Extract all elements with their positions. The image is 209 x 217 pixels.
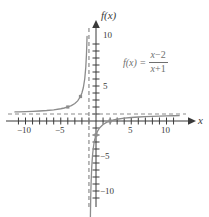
y-tick-label-neg10: −10 [100,187,114,196]
x-axis-arrowhead [188,117,196,125]
y-tick-label-neg5: −5 [100,152,110,161]
x-axis-label: x [198,115,203,126]
x-tick-label-neg5: −5 [55,126,65,135]
equation-fraction: x−2 x+1 [149,50,168,74]
equation-lhs: f(x) [123,57,137,68]
plot-point-marker [94,133,97,136]
x-tick-label-neg10: −10 [17,126,31,135]
denominator-constant: 1 [161,63,166,74]
x-tick-label-5: 5 [128,126,133,135]
curve-left-branch [15,36,87,112]
equation-numerator: x−2 [149,50,168,62]
plot-point-marker [66,105,69,108]
y-tick-label-10: 10 [103,31,112,40]
function-equation: f(x) = x−2 x+1 [123,50,168,74]
plot-point-marker [109,119,112,122]
y-tick-label-5: 5 [103,82,108,91]
y-axis-arrowhead [92,20,100,28]
equation-denominator: x+1 [149,63,168,75]
y-axis-label: f(x) [101,10,116,21]
plot-point-marker [79,95,82,98]
equation-equals-sign: = [139,57,147,68]
function-graph-figure: f(x) x −10 −5 5 10 10 5 −5 −10 f(x) = x−… [0,0,209,217]
x-tick-label-10: 10 [161,126,170,135]
numerator-constant: 2 [161,49,166,60]
